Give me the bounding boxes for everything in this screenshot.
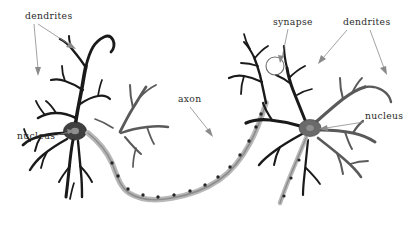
node-of-ranvier <box>216 175 219 178</box>
label-synapse: synapse <box>273 16 313 27</box>
node-of-ranvier <box>228 165 231 168</box>
node-of-ranvier <box>116 174 119 177</box>
node-of-ranvier <box>110 161 113 164</box>
node-of-ranvier <box>126 187 129 190</box>
node-of-ranvier <box>141 193 144 196</box>
node-of-ranvier <box>188 189 191 192</box>
node-of-ranvier <box>156 195 159 198</box>
node-of-ranvier <box>297 158 300 161</box>
label-dendrites-left: dendrites <box>25 10 72 21</box>
neuron-diagram: dendrites nucleus axon synapse <box>0 0 412 228</box>
node-of-ranvier <box>289 176 292 179</box>
nucleus-right <box>306 125 314 131</box>
node-of-ranvier <box>238 153 241 156</box>
node-of-ranvier <box>259 112 262 115</box>
diagram-canvas: dendrites nucleus axon synapse <box>0 0 412 228</box>
label-nucleus-right: nucleus <box>365 110 403 121</box>
label-dendrites-right: dendrites <box>343 16 390 27</box>
label-nucleus-left: nucleus <box>17 130 55 141</box>
node-of-ranvier <box>282 194 285 197</box>
node-of-ranvier <box>172 193 175 196</box>
node-of-ranvier <box>254 125 257 128</box>
node-of-ranvier <box>203 183 206 186</box>
label-axon: axon <box>178 93 202 104</box>
node-of-ranvier <box>247 139 250 142</box>
